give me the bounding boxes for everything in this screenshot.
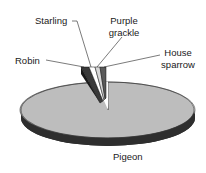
leader-line-house-sparrow <box>104 55 160 67</box>
label-robin: Robin <box>15 55 40 66</box>
leader-line-robin <box>46 60 84 67</box>
label-starling: Starling <box>35 15 67 26</box>
label-purple-grackle-line1: Purple <box>104 15 144 26</box>
leader-line-purple-grackle <box>97 37 122 67</box>
label-pigeon: Pigeon <box>113 151 143 162</box>
label-house-sparrow-line2: sparrow <box>158 59 198 70</box>
label-purple-grackle-line2: grackle <box>104 27 144 38</box>
label-house-sparrow-line1: House <box>158 47 198 58</box>
pie-chart <box>0 0 206 173</box>
leader-line-starling <box>72 21 91 67</box>
